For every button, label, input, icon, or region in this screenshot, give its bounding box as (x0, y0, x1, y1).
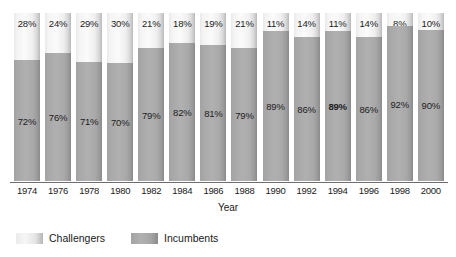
x-tick-label: 1994 (325, 185, 351, 196)
bar-segment-incumbents[interactable]: 89% (325, 31, 351, 181)
bar-segment-challengers[interactable]: 10% (418, 13, 444, 30)
bar-column[interactable]: 21%79% (231, 13, 257, 181)
x-tick-label: 1976 (45, 185, 71, 196)
bar-segment-incumbents[interactable]: 70% (107, 63, 133, 181)
bar-segment-incumbents[interactable]: 92% (387, 26, 413, 181)
bar-value-label-challengers: 11% (263, 18, 289, 29)
bar-value-label-incumbents: 92% (387, 98, 413, 109)
bar-column[interactable]: 11%89% (325, 13, 351, 181)
bar-value-label-incumbents: 89% (325, 101, 351, 112)
bar-value-label-challengers: 21% (138, 18, 164, 29)
bar-segment-incumbents[interactable]: 72% (14, 60, 40, 181)
bar-value-label-incumbents: 71% (76, 116, 102, 127)
bar-column[interactable]: 14%86% (294, 13, 320, 181)
bar-column[interactable]: 11%89% (263, 13, 289, 181)
bar-segment-challengers[interactable]: 21% (231, 13, 257, 48)
bar-segment-incumbents[interactable]: 71% (76, 62, 102, 181)
bar-column[interactable]: 24%76% (45, 13, 71, 181)
bar-value-label-incumbents: 81% (200, 107, 226, 118)
bar-column[interactable]: 14%86% (356, 13, 382, 181)
bar-segment-challengers[interactable]: 11% (325, 13, 351, 31)
bar-value-label-challengers: 28% (14, 18, 40, 29)
bar-segment-incumbents[interactable]: 90% (418, 30, 444, 181)
bar-segment-incumbents[interactable]: 81% (200, 45, 226, 181)
bar-value-label-incumbents: 86% (294, 103, 320, 114)
bar-segment-challengers[interactable]: 18% (169, 13, 195, 43)
bar-segment-incumbents[interactable]: 86% (356, 37, 382, 181)
bar-segment-incumbents[interactable]: 82% (169, 43, 195, 181)
challengers-swatch-icon (16, 233, 43, 244)
x-tick-label: 1992 (294, 185, 320, 196)
x-tick-label: 1986 (200, 185, 226, 196)
bar-column[interactable]: 28%72% (14, 13, 40, 181)
x-tick-label: 1982 (138, 185, 164, 196)
bar-segment-challengers[interactable]: 21% (138, 13, 164, 48)
bar-value-label-challengers: 24% (45, 18, 71, 29)
x-tick-label: 1998 (387, 185, 413, 196)
bar-segment-incumbents[interactable]: 79% (138, 48, 164, 181)
bar-value-label-incumbents: 79% (138, 109, 164, 120)
x-tick-label: 1984 (169, 185, 195, 196)
bar-value-label-incumbents: 76% (45, 112, 71, 123)
bar-segment-challengers[interactable]: 8% (387, 13, 413, 26)
legend-item-incumbents[interactable]: Incumbents (131, 232, 218, 244)
x-axis-tick-labels: 1974197619781980198219841986198819901992… (14, 185, 444, 196)
bar-value-label-incumbents: 70% (107, 117, 133, 128)
bar-value-label-challengers: 10% (418, 18, 444, 29)
bar-value-label-challengers: 11% (325, 18, 351, 29)
chart-legend: Challengers Incumbents (16, 232, 218, 244)
bar-value-label-challengers: 14% (356, 18, 382, 29)
bar-value-label-incumbents: 89% (263, 101, 289, 112)
bar-value-label-challengers: 14% (294, 18, 320, 29)
bar-value-label-incumbents: 86% (356, 103, 382, 114)
bar-segment-challengers[interactable]: 24% (45, 13, 71, 53)
bar-value-label-challengers: 19% (200, 18, 226, 29)
x-tick-label: 1980 (107, 185, 133, 196)
bar-value-label-challengers: 21% (231, 18, 257, 29)
incumbents-swatch-icon (131, 233, 158, 244)
bar-column[interactable]: 18%82% (169, 13, 195, 181)
bar-column[interactable]: 29%71% (76, 13, 102, 181)
x-tick-label: 1990 (263, 185, 289, 196)
bar-segment-challengers[interactable]: 11% (263, 13, 289, 31)
x-tick-label: 1978 (76, 185, 102, 196)
bar-segment-challengers[interactable]: 19% (200, 13, 226, 45)
bar-segment-challengers[interactable]: 30% (107, 13, 133, 63)
x-tick-label: 1988 (231, 185, 257, 196)
x-axis-title: Year (0, 202, 456, 213)
bar-segment-incumbents[interactable]: 86% (294, 37, 320, 181)
bar-value-label-incumbents: 79% (231, 109, 257, 120)
x-tick-label: 1996 (356, 185, 382, 196)
bar-value-label-incumbents: 72% (14, 115, 40, 126)
stacked-bar-chart: 28%72%24%76%29%71%30%70%21%79%18%82%19%8… (0, 0, 456, 257)
bar-column[interactable]: 30%70% (107, 13, 133, 181)
bar-segment-incumbents[interactable]: 79% (231, 48, 257, 181)
bar-value-label-incumbents: 82% (169, 107, 195, 118)
x-tick-label: 2000 (418, 185, 444, 196)
bar-segment-incumbents[interactable]: 76% (45, 53, 71, 181)
legend-label-challengers: Challengers (49, 232, 105, 244)
bar-column[interactable]: 10%90% (418, 13, 444, 181)
bar-segment-challengers[interactable]: 14% (294, 13, 320, 37)
bar-value-label-challengers: 29% (76, 18, 102, 29)
bar-column[interactable]: 8%92% (387, 13, 413, 181)
legend-item-challengers[interactable]: Challengers (16, 232, 105, 244)
bar-segment-challengers[interactable]: 14% (356, 13, 382, 37)
legend-label-incumbents: Incumbents (164, 232, 218, 244)
bar-value-label-challengers: 18% (169, 18, 195, 29)
x-tick-label: 1974 (14, 185, 40, 196)
bar-column[interactable]: 21%79% (138, 13, 164, 181)
bar-value-label-challengers: 30% (107, 18, 133, 29)
bar-segment-challengers[interactable]: 29% (76, 13, 102, 62)
x-axis-line (10, 182, 448, 183)
plot-area: 28%72%24%76%29%71%30%70%21%79%18%82%19%8… (14, 13, 444, 181)
bar-segment-challengers[interactable]: 28% (14, 13, 40, 60)
bar-column[interactable]: 19%81% (200, 13, 226, 181)
bar-segment-incumbents[interactable]: 89% (263, 31, 289, 181)
bar-value-label-incumbents: 90% (418, 100, 444, 111)
